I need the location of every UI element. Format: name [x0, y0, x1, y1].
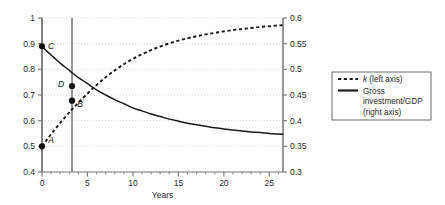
y-tick-label-right: 0.45 [290, 90, 307, 100]
data-point-label-d: D [58, 79, 64, 89]
x-tick-label: 25 [265, 178, 275, 188]
y-tick-label-right: 0.55 [290, 39, 307, 49]
y-tick-label-left: 0.7 [23, 90, 35, 100]
y-axis-right-ticks: 0.30.350.40.450.50.550.6 [283, 13, 307, 177]
y-tick-label-right: 0.5 [290, 64, 302, 74]
data-point-marker-b [69, 98, 75, 104]
economic-growth-chart: 0.40.50.60.70.80.910.30.350.40.450.50.55… [0, 0, 445, 205]
x-tick-label: 10 [128, 178, 138, 188]
y-tick-label-left: 0.5 [23, 141, 35, 151]
y-tick-label-right: 0.3 [290, 167, 302, 177]
x-tick-label: 20 [219, 178, 229, 188]
y-axis-left-ticks: 0.40.50.60.70.80.91 [23, 13, 42, 177]
y-tick-label-left: 1 [30, 13, 35, 23]
x-tick-label: 5 [85, 178, 90, 188]
x-tick-label: 0 [40, 178, 45, 188]
data-point-marker-c [39, 43, 45, 49]
legend-label-1: Gross [363, 87, 385, 96]
y-tick-label-right: 0.6 [290, 13, 302, 23]
x-axis-title: Years [152, 190, 173, 200]
y-tick-label-left: 0.6 [23, 116, 35, 126]
y-tick-label-right: 0.35 [290, 141, 307, 151]
x-tick-label: 15 [174, 178, 184, 188]
data-point-marker-a [39, 143, 45, 149]
grid-lines [42, 18, 283, 172]
x-axis-ticks: 0510152025 [40, 172, 275, 188]
legend-label-3: (right axis) [363, 108, 401, 117]
legend: k (left axis)Grossinvestment/GDP(right a… [332, 72, 431, 120]
y-tick-label-left: 0.9 [23, 39, 35, 49]
data-point-marker-d [69, 83, 75, 89]
data-point-label-b: B [77, 99, 83, 109]
y-tick-label-left: 0.4 [23, 167, 35, 177]
y-tick-label-right: 0.4 [290, 116, 302, 126]
data-point-label-a: A [47, 135, 54, 145]
legend-label-2: investment/GDP [363, 97, 423, 106]
legend-label-0: k (left axis) [363, 75, 403, 84]
data-point-label-c: C [48, 41, 55, 51]
legend-label-text: (left axis) [367, 75, 403, 84]
y-tick-label-left: 0.8 [23, 64, 35, 74]
chart-container: 0.40.50.60.70.80.910.30.350.40.450.50.55… [0, 0, 445, 205]
